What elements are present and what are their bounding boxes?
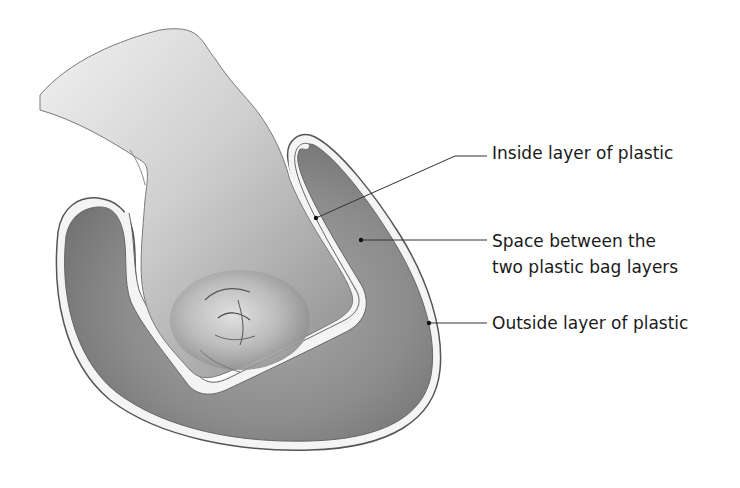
- label-outside-layer: Outside layer of plastic: [492, 310, 688, 336]
- label-outside-layer-text: Outside layer of plastic: [492, 313, 688, 333]
- dot-inside-layer: [314, 216, 318, 220]
- dot-outside-layer: [427, 321, 431, 325]
- label-inside-layer: Inside layer of plastic: [492, 140, 673, 166]
- label-inside-layer-text: Inside layer of plastic: [492, 143, 673, 163]
- label-space-between: Space between the two plastic bag layers: [492, 228, 678, 280]
- label-space-line1: Space between the: [492, 228, 678, 254]
- bag-fist-diagram: Inside layer of plastic Space between th…: [0, 0, 740, 488]
- label-space-line2: two plastic bag layers: [492, 254, 678, 280]
- dot-space-between: [359, 238, 363, 242]
